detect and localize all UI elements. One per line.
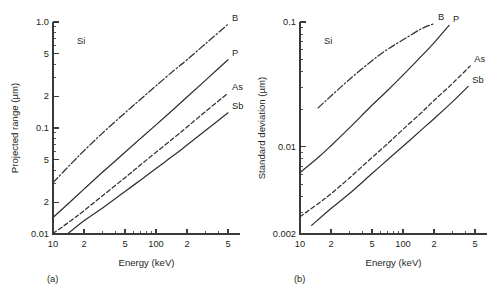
x-tick-label: 10	[295, 239, 305, 249]
y-tick-label: 0.1	[36, 123, 49, 133]
annotation-si: Si	[324, 36, 332, 46]
x-tick-label: 5	[122, 239, 127, 249]
curve-as	[300, 66, 470, 217]
curve-sb	[68, 113, 228, 234]
y-tick-label: 0.01	[278, 142, 296, 152]
curve-label-as: As	[232, 82, 243, 92]
panel-caption: (b)	[294, 274, 305, 284]
x-tick-label: 5	[225, 239, 230, 249]
curve-as	[53, 93, 228, 233]
plot-a-svg: 0.01250.1251.0102510025BPAsSbSiEnergy (k…	[0, 0, 247, 300]
y-tick-label: 2	[44, 91, 49, 101]
panel-caption: (a)	[47, 274, 58, 284]
y-tick-label: 0.002	[273, 229, 296, 239]
curve-label-sb: Sb	[232, 101, 243, 111]
x-tick-label: 5	[472, 239, 477, 249]
axis-spines	[53, 22, 240, 234]
y-tick-label: 1.0	[36, 17, 49, 27]
x-tick-label: 100	[395, 239, 411, 249]
curve-label-p: P	[453, 14, 459, 24]
curve-p	[53, 60, 228, 218]
axis-spines	[300, 22, 487, 234]
x-tick-label: 5	[369, 239, 374, 249]
x-tick-label: 2	[328, 239, 333, 249]
x-axis-title: Energy (keV)	[119, 257, 175, 268]
curve-b	[53, 24, 228, 182]
curve-p	[300, 25, 449, 172]
y-tick-label: 0.01	[31, 229, 49, 239]
y-axis-title: Standard deviation (µm)	[256, 77, 267, 180]
annotation-si: Si	[77, 36, 85, 46]
x-tick-label: 100	[148, 239, 164, 249]
y-tick-label: 5	[44, 155, 49, 165]
plot-b-svg: 0.0020.010.1102510025BPAsSbSiEnergy (keV…	[247, 0, 494, 300]
chart-panel-b: 0.0020.010.1102510025BPAsSbSiEnergy (keV…	[247, 0, 494, 300]
curve-label-sb: Sb	[472, 75, 483, 85]
figure-root: 0.01250.1251.0102510025BPAsSbSiEnergy (k…	[0, 0, 494, 300]
y-tick-label: 5	[44, 49, 49, 59]
curve-label-b: B	[232, 13, 238, 23]
x-tick-label: 10	[48, 239, 58, 249]
x-tick-label: 2	[431, 239, 436, 249]
chart-panel-a: 0.01250.1251.0102510025BPAsSbSiEnergy (k…	[0, 0, 247, 300]
curve-label-p: P	[232, 48, 238, 58]
y-axis-title: Projected range (µm)	[9, 83, 20, 173]
curve-sb	[312, 86, 469, 225]
x-axis-title: Energy (keV)	[366, 257, 422, 268]
curve-label-as: As	[474, 54, 485, 64]
x-tick-label: 2	[81, 239, 86, 249]
x-tick-label: 2	[184, 239, 189, 249]
y-tick-label: 2	[44, 197, 49, 207]
curve-label-b: B	[438, 12, 444, 22]
curve-b	[318, 24, 434, 108]
y-tick-label: 0.1	[283, 17, 296, 27]
